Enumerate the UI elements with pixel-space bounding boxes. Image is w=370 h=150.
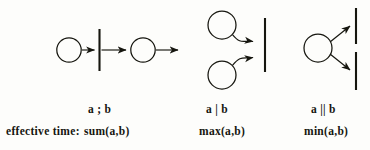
arc-fork-upper bbox=[330, 26, 350, 42]
effective-time-sequential: sum(a,b) bbox=[84, 125, 130, 137]
operator-label-choice-join: a | b bbox=[206, 103, 228, 115]
place-a-node bbox=[57, 38, 81, 62]
place-b-node bbox=[131, 38, 155, 62]
composition-operators-figure: effective time: a ; b a | b a || b sum(a… bbox=[0, 0, 370, 150]
arc-a-to-join bbox=[233, 35, 254, 42]
arc-b-to-join bbox=[233, 58, 254, 66]
diagram-layer bbox=[0, 0, 370, 100]
effective-time-choice-join: max(a,b) bbox=[199, 125, 245, 137]
effective-time-parallel-fork: min(a,b) bbox=[304, 125, 348, 137]
petri-net-diagrams bbox=[0, 0, 370, 100]
diagram-choice-join bbox=[208, 11, 265, 89]
caption-layer: effective time: a ; b a | b a || b sum(a… bbox=[0, 98, 370, 150]
place-b-node bbox=[208, 61, 236, 89]
diagram-sequential bbox=[57, 29, 178, 71]
effective-time-row-label: effective time: bbox=[6, 125, 80, 137]
place-a-node bbox=[304, 34, 332, 62]
operator-label-sequential: a ; b bbox=[88, 103, 111, 115]
place-a-node bbox=[208, 11, 236, 39]
operator-label-parallel-fork: a || b bbox=[311, 103, 336, 115]
diagram-parallel-fork bbox=[304, 8, 356, 90]
arc-fork-lower bbox=[330, 54, 350, 70]
